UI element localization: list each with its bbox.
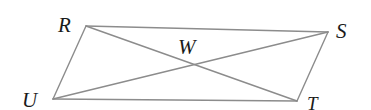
vertex-label-r: R xyxy=(58,15,71,36)
side-ST xyxy=(297,32,328,101)
vertex-label-u: U xyxy=(22,90,37,110)
side-TU xyxy=(53,99,297,101)
vertex-label-t: T xyxy=(307,94,318,110)
vertex-label-s: S xyxy=(336,21,347,42)
side-RS xyxy=(86,26,328,32)
geometry-figure-parallelogram-rstu: RSTUW xyxy=(0,0,371,110)
vertex-label-w: W xyxy=(178,37,196,58)
